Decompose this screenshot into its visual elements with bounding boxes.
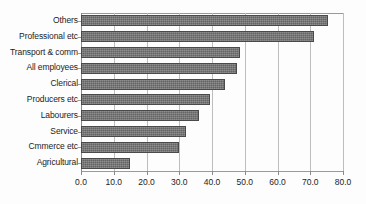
bar-row	[81, 76, 343, 92]
y-axis-tick-label: Cmmerce etc	[2, 141, 78, 151]
x-axis-tick-mark	[179, 171, 180, 175]
bar	[81, 142, 179, 153]
x-axis-tick-mark	[245, 171, 246, 175]
bar-row	[81, 139, 343, 155]
y-axis-tick-label: Professional etc	[2, 31, 78, 41]
bar-row	[81, 108, 343, 124]
y-axis-tick-label: Transport & comm	[2, 47, 78, 57]
y-axis-tick-label: Service	[2, 126, 78, 136]
bar-row	[81, 155, 343, 171]
plot-area	[81, 13, 343, 171]
x-axis-tick-mark	[310, 171, 311, 175]
y-axis-tick-label: Others	[2, 15, 78, 25]
x-axis-tick-mark	[343, 171, 344, 175]
y-axis-tick-label: Labourers	[2, 110, 78, 120]
x-axis-tick-label: 80.0	[323, 177, 363, 187]
gridline-80.0	[343, 13, 344, 171]
bar	[81, 110, 199, 121]
bar	[81, 31, 314, 42]
bar-chart: OthersProfessional etcTransport & commAl…	[0, 0, 366, 204]
bar	[81, 63, 237, 74]
bar	[81, 126, 186, 137]
bar	[81, 79, 225, 90]
x-axis-tick-mark	[278, 171, 279, 175]
y-axis-tick-label: Producers etc	[2, 94, 78, 104]
bar-row	[81, 92, 343, 108]
bar-row	[81, 13, 343, 29]
x-axis-tick-mark	[81, 171, 82, 175]
bar	[81, 47, 240, 58]
bar-row	[81, 29, 343, 45]
x-axis-tick-mark	[114, 171, 115, 175]
y-axis-tick-label: Agricultural	[2, 157, 78, 167]
y-axis-labels: OthersProfessional etcTransport & commAl…	[0, 13, 78, 171]
bar	[81, 94, 210, 105]
x-axis-tick-mark	[147, 171, 148, 175]
bar	[81, 15, 328, 26]
bar-row	[81, 60, 343, 76]
bar-row	[81, 124, 343, 140]
x-axis-tick-mark	[212, 171, 213, 175]
bar-row	[81, 45, 343, 61]
y-axis-tick-label: Clerical	[2, 78, 78, 88]
y-axis-tick-label: All employees	[2, 62, 78, 72]
bar	[81, 158, 130, 169]
